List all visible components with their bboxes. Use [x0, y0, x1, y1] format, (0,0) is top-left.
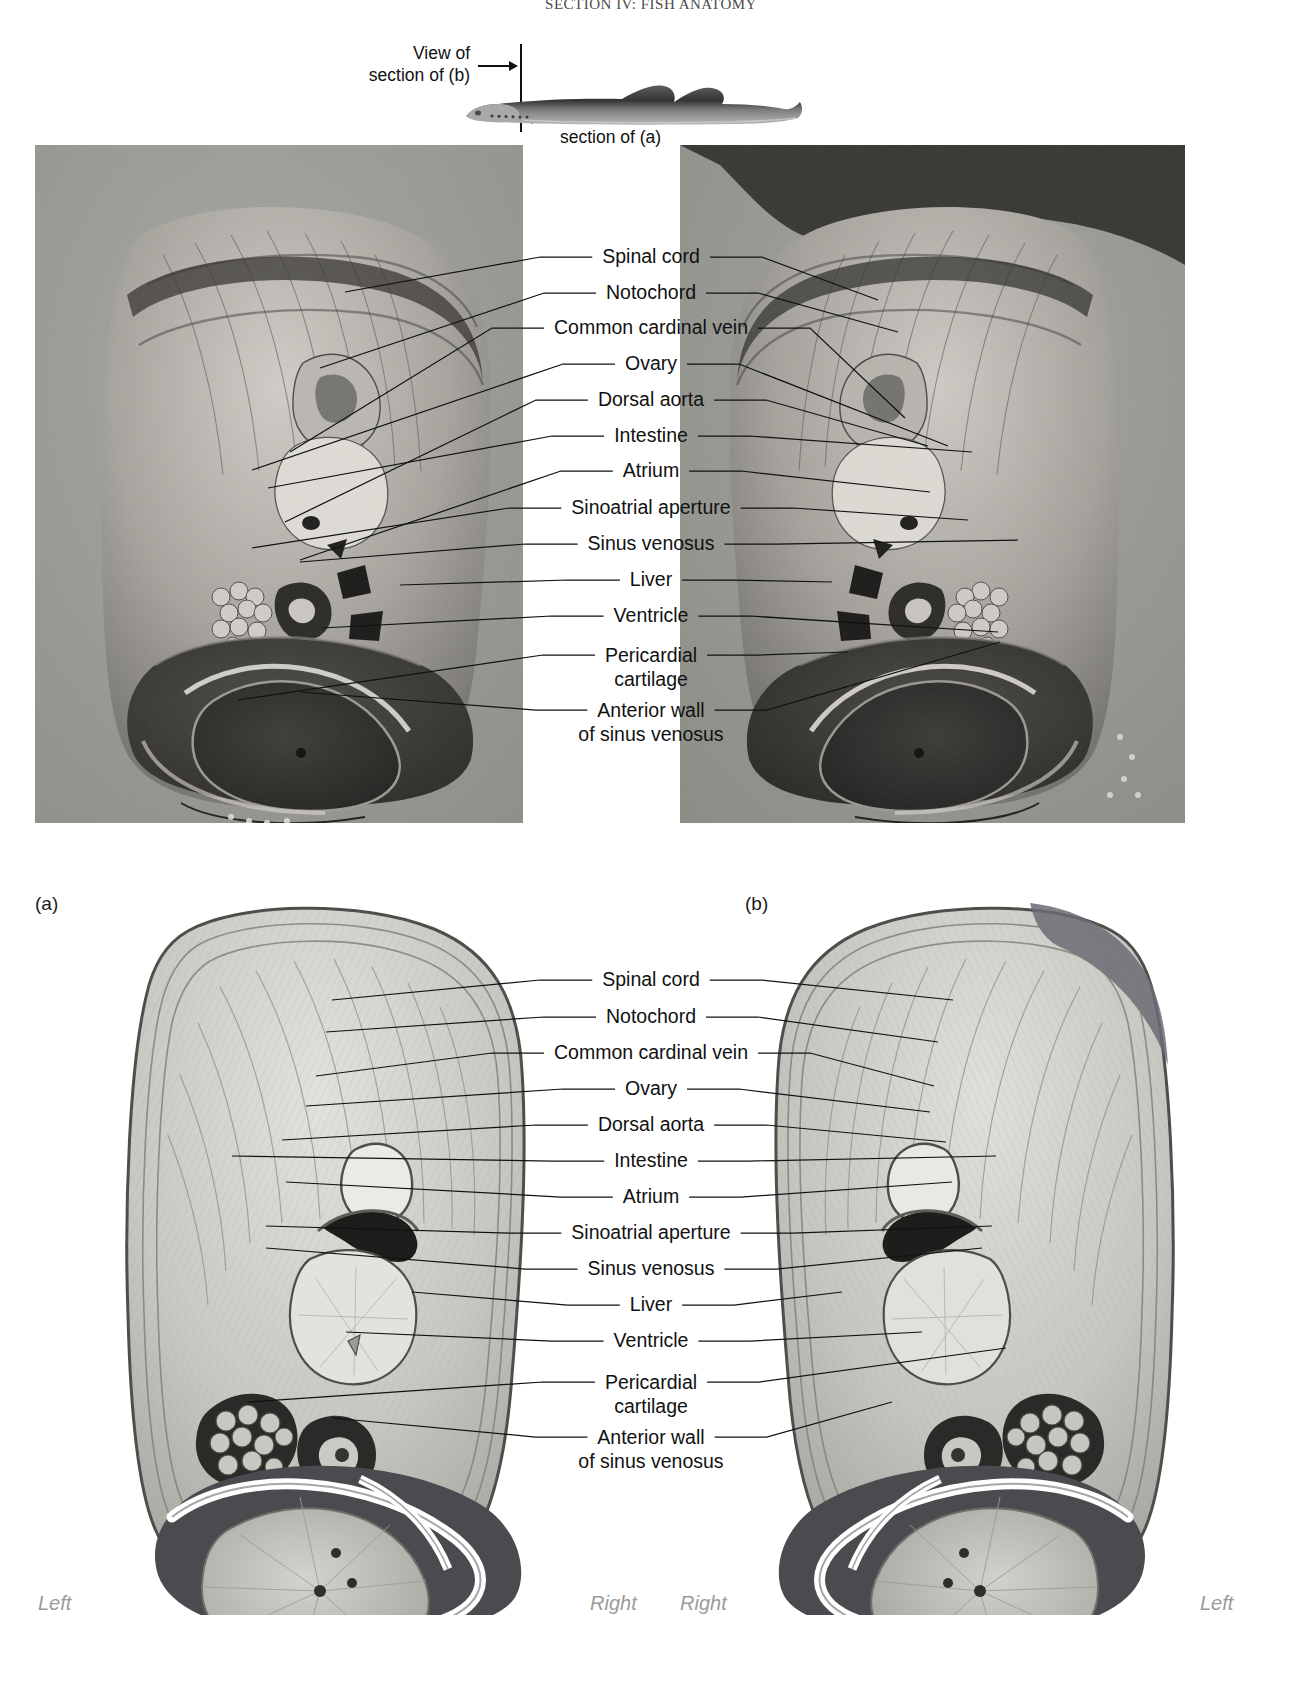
cross-section-photograph-a — [35, 145, 523, 823]
orientation-word-right-inner-left: Right — [590, 1592, 637, 1615]
photo-label-anterior-wall-of-sinus-venosus: Anterior wallof sinus venosus — [531, 698, 771, 746]
photo-label-sinoatrial-aperture: Sinoatrial aperture — [571, 496, 730, 519]
drawing-label-liver: Liver — [630, 1293, 672, 1316]
drawing-label-anterior-wall-of-sinus-venosus: Anterior wallof sinus venosus — [531, 1425, 771, 1473]
photo-label-line: Ovary — [625, 352, 677, 374]
drawing-label-intestine: Intestine — [614, 1149, 688, 1172]
photo-label-intestine: Intestine — [614, 424, 688, 447]
drawing-label-notochord: Notochord — [606, 1005, 696, 1028]
drawing-label-line: Pericardial — [605, 1371, 697, 1393]
drawing-label-line: Ovary — [625, 1077, 677, 1099]
drawing-label-spinal-cord: Spinal cord — [602, 968, 700, 991]
drawing-label-line: Sinus venosus — [588, 1257, 715, 1279]
drawing-label-line: Dorsal aorta — [598, 1113, 704, 1135]
view-of-section-b-label: View of section of (b) — [330, 42, 470, 86]
photo-label-liver: Liver — [630, 568, 672, 591]
orientation-word-left-outer-right: Left — [1200, 1592, 1233, 1615]
view-of-section-b-line1: View of — [413, 43, 470, 63]
photo-label-spinal-cord: Spinal cord — [602, 245, 700, 268]
panel-caption-a: (a) — [35, 893, 58, 915]
drawing-label-line: of sinus venosus — [578, 1450, 723, 1472]
drawing-label-common-cardinal-vein: Common cardinal vein — [554, 1041, 748, 1064]
photo-label-line: Intestine — [614, 424, 688, 446]
drawing-label-line: cartilage — [614, 1395, 688, 1417]
drawing-label-sinus-venosus: Sinus venosus — [588, 1257, 715, 1280]
drawing-label-ovary: Ovary — [625, 1077, 677, 1100]
photo-label-line: Common cardinal vein — [554, 316, 748, 338]
drawing-label-line: Anterior wall — [597, 1426, 704, 1448]
orientation-key: View of section of (b) View of section o… — [330, 38, 850, 146]
lamprey-silhouette-icon — [462, 76, 812, 134]
cross-section-drawing-b — [700, 875, 1240, 1615]
orientation-word-right-inner-right: Right — [680, 1592, 727, 1615]
photo-label-common-cardinal-vein: Common cardinal vein — [554, 316, 748, 339]
photo-label-dorsal-aorta: Dorsal aorta — [598, 388, 704, 411]
drawing-label-dorsal-aorta: Dorsal aorta — [598, 1113, 704, 1136]
drawing-label-line: Atrium — [623, 1185, 679, 1207]
drawing-label-line: Ventricle — [614, 1329, 689, 1351]
drawing-label-line: Spinal cord — [602, 968, 700, 990]
photo-label-ovary: Ovary — [625, 352, 677, 375]
drawing-label-ventricle: Ventricle — [614, 1329, 689, 1352]
drawing-label-line: Notochord — [606, 1005, 696, 1027]
photo-label-line: Dorsal aorta — [598, 388, 704, 410]
photo-label-atrium: Atrium — [623, 459, 679, 482]
photo-label-line: cartilage — [614, 668, 688, 690]
photo-label-line: of sinus venosus — [578, 723, 723, 745]
drawing-label-sinoatrial-aperture: Sinoatrial aperture — [571, 1221, 730, 1244]
drawing-label-line: Liver — [630, 1293, 672, 1315]
photo-label-line: Liver — [630, 568, 672, 590]
drawing-label-line: Sinoatrial aperture — [571, 1221, 730, 1243]
drawing-label-atrium: Atrium — [623, 1185, 679, 1208]
arrow-to-section-b-icon — [478, 65, 516, 67]
photo-label-line: Anterior wall — [597, 699, 704, 721]
cross-section-drawing-a — [60, 875, 580, 1615]
photo-label-line: Sinoatrial aperture — [571, 496, 730, 518]
drawing-label-pericardial-cartilage: Pericardialcartilage — [531, 1370, 771, 1418]
photo-label-line: Atrium — [623, 459, 679, 481]
photo-label-line: Ventricle — [614, 604, 689, 626]
figure-page: SECTION IV: FISH ANATOMY View of section… — [0, 0, 1302, 1683]
running-head: SECTION IV: FISH ANATOMY — [0, 0, 1302, 13]
photo-label-notochord: Notochord — [606, 281, 696, 304]
photo-label-line: Pericardial — [605, 644, 697, 666]
photo-label-line: Notochord — [606, 281, 696, 303]
view-of-section-b-line2: section of (b) — [369, 65, 470, 85]
photo-label-pericardial-cartilage: Pericardialcartilage — [531, 643, 771, 691]
photo-label-line: Sinus venosus — [588, 532, 715, 554]
drawing-label-line: Common cardinal vein — [554, 1041, 748, 1063]
photo-label-sinus-venosus: Sinus venosus — [588, 532, 715, 555]
orientation-word-left-outer: Left — [38, 1592, 71, 1615]
photo-label-line: Spinal cord — [602, 245, 700, 267]
photo-label-ventricle: Ventricle — [614, 604, 689, 627]
drawing-label-line: Intestine — [614, 1149, 688, 1171]
